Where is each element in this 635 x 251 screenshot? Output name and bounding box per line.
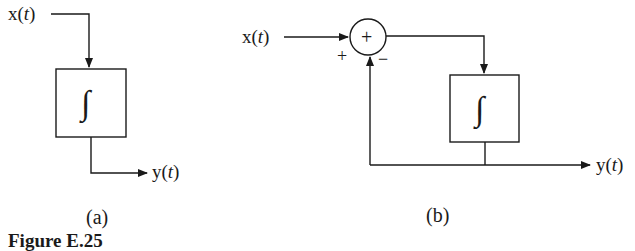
diagram-b-integrator-symbol: ∫ [475, 92, 484, 126]
diagram-b-input-label: x(t) [242, 27, 269, 46]
summer-minus-sign: − [378, 50, 388, 68]
diagram-a-input-label: x(t) [8, 4, 35, 23]
summer-symbol: + [361, 27, 372, 47]
diagram-b-output-label: y(t) [596, 155, 623, 174]
diagram-a-integrator-symbol: ∫ [81, 86, 90, 120]
figure-caption: Figure E.25 [8, 231, 103, 250]
diagram-a-output-label: y(t) [152, 162, 179, 181]
summer-plus-sign: + [337, 47, 347, 65]
diagram-b-caption: (b) [426, 205, 449, 225]
diagram-a-caption: (a) [86, 207, 108, 227]
